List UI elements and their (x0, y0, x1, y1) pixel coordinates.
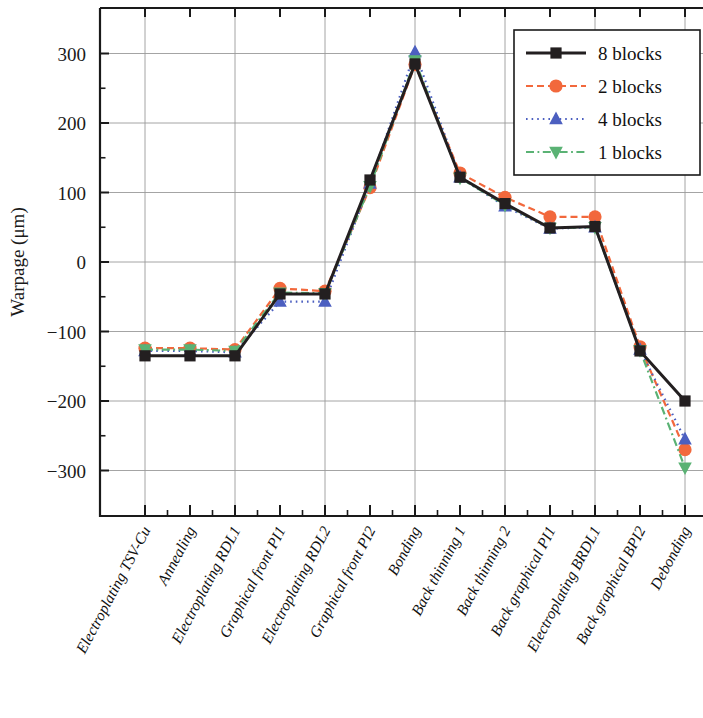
data-point-marker (319, 288, 330, 299)
legend-label: 4 blocks (598, 109, 662, 130)
data-point-marker (274, 288, 285, 299)
x-category-label: Debonding (646, 523, 694, 593)
y-tick-label: −300 (47, 461, 86, 482)
x-category-label: Annealing (153, 523, 199, 588)
warpage-line-chart: 3002001000−100−200−300 Electroplating TS… (0, 0, 703, 718)
data-point-marker (678, 432, 692, 445)
chart-figure: 3002001000−100−200−300 Electroplating TS… (0, 0, 703, 718)
y-tick-label: 300 (58, 44, 87, 65)
y-tick-label: 200 (58, 113, 87, 134)
y-axis-title-text: Warpage (μm) (7, 207, 29, 316)
x-category-label: Electroplating TSV-Cu (72, 523, 154, 657)
x-category-label: Bonding (384, 523, 424, 578)
data-point-marker (549, 79, 562, 92)
data-point-marker (409, 58, 420, 69)
data-point-marker (184, 350, 195, 361)
data-point-marker (634, 345, 645, 356)
y-axis-title: Warpage (μm) (7, 207, 29, 316)
data-point-marker (678, 463, 692, 476)
y-tick-label: 100 (58, 183, 87, 204)
y-tick-label: −200 (47, 391, 86, 412)
chart-legend: 8 blocks2 blocks4 blocks1 blocks (514, 30, 700, 175)
data-point-marker (139, 350, 150, 361)
data-point-marker (550, 47, 561, 58)
data-point-marker (499, 198, 510, 209)
y-tick-label: −100 (47, 322, 86, 343)
data-point-marker (589, 221, 600, 232)
data-point-marker (679, 395, 690, 406)
legend-label: 2 blocks (598, 76, 662, 97)
data-point-marker (364, 174, 375, 185)
data-point-marker (454, 172, 465, 183)
data-point-marker (229, 350, 240, 361)
legend-label: 8 blocks (598, 43, 662, 64)
legend-label: 1 blocks (598, 142, 662, 163)
y-tick-label: 0 (77, 252, 87, 273)
data-point-marker (544, 222, 555, 233)
x-category-labels: Electroplating TSV-CuAnnealingElectropla… (72, 523, 694, 657)
y-tick-labels: 3002001000−100−200−300 (47, 44, 86, 482)
